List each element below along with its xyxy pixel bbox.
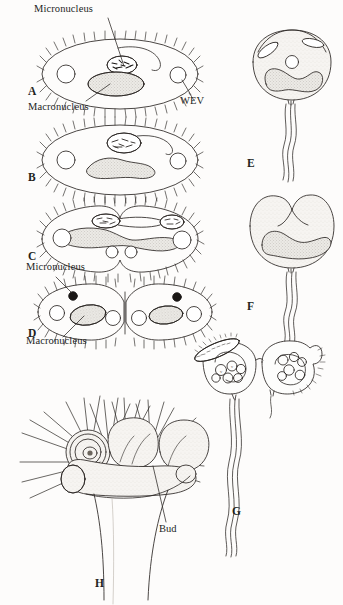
panel-label-g: G [232,506,241,518]
figure-artwork: v v [0,0,343,605]
panel-label-f: F [247,301,254,313]
annotation-micronucleus-d: Micronucleus [26,262,85,273]
figure-plate: v v [0,0,343,605]
panel-label-d: D [28,328,37,340]
panel-label-e: E [247,158,255,170]
annotation-wev-a: WEV [180,96,204,107]
panel-label-b: B [28,172,36,184]
panel-label-a: A [28,86,37,98]
panel-h-artwork [20,396,209,604]
panel-g-artwork: v v [192,333,325,557]
annotation-macronucleus-a: Macronucleus [28,102,89,113]
annotation-bud-h: Bud [159,524,177,535]
panel-e-artwork [253,30,331,182]
panel-label-h: H [95,578,104,590]
panel-label-c: C [28,251,37,263]
annotation-micronucleus-top: Micronucleus [34,4,93,15]
panel-b-artwork [37,117,203,203]
panel-f-artwork [250,195,334,346]
